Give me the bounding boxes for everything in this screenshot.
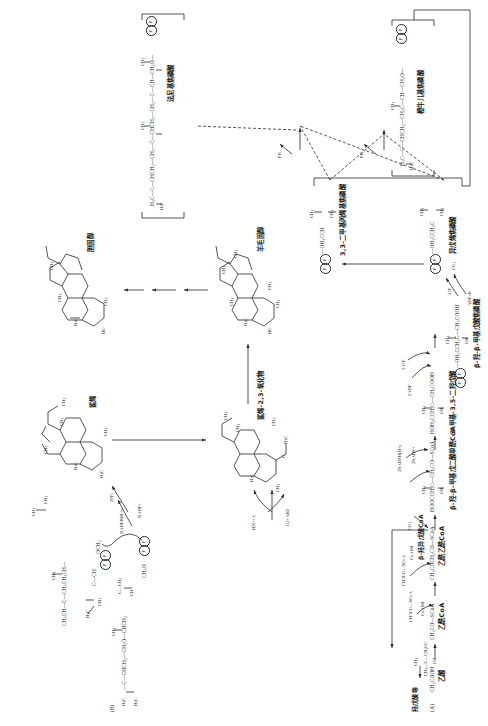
acetoacetyl-coa-label: 乙酰乙酰CoA xyxy=(439,526,446,566)
lan-ch3-1: CH3 xyxy=(230,298,235,306)
presq-ch3-top: CH3 xyxy=(52,572,57,580)
lan-ch3-2: CH3 xyxy=(222,266,227,274)
ipp-label: 异戊烯焦磷酸 xyxy=(450,216,457,254)
gpp-p1: P xyxy=(396,34,407,45)
fpp-formula: H3C—C—CHCH2—CH2—C—CHCH2—CH2—C—CH—CH2O— xyxy=(150,55,157,206)
figure-page: (A) CH3COOH 乙酸 CH3CO—SCoA 乙酰CoA CH3COCH2… xyxy=(0,0,488,726)
mev5p-formula: —OH2CCH2C—CH2COOH xyxy=(455,305,462,368)
chol-ch3-2: CH3 xyxy=(50,262,55,270)
hmg-coa-formula: HOOCCH2C—CH2CO—SCoA xyxy=(430,441,437,512)
gpp-ch3: CH3 xyxy=(391,102,396,110)
fppb-tail: CH2O xyxy=(142,564,149,578)
acetyl-coa-input-1: CH3CO—SCoA xyxy=(409,591,414,622)
skeleton-overlay xyxy=(0,0,488,726)
sqox-h3c2: H3C xyxy=(284,436,289,444)
lan-ch3-3: CH3 xyxy=(234,250,239,258)
presq-ch: C—CH xyxy=(92,569,98,586)
phosphate-circle-1: P xyxy=(455,378,466,389)
presq-formula: CH2CH—C—CH2CH2CH— xyxy=(62,561,69,626)
hmg-coa-ch3: CH3 xyxy=(422,486,427,494)
squalene-ch3-4: CH3 xyxy=(62,398,67,406)
branch-c: CH2—C—CH2CO xyxy=(424,641,429,676)
presq-p2: P xyxy=(100,551,111,562)
sqox-ch3-3: CH3 xyxy=(272,418,277,426)
ppi-b-label: 2PPi xyxy=(110,493,115,502)
acetyl-coa-input-2: CH3CO—SCoA xyxy=(402,555,407,586)
ipp-p1: P xyxy=(430,264,441,275)
presq-ch3-low: CH3 xyxy=(98,598,103,606)
co2-2-label: CO2 xyxy=(452,262,457,270)
gpp-h3c-b: H3C xyxy=(410,162,415,170)
coash-out-1: CoASH xyxy=(421,601,426,616)
mev5p-label: β-羟-β-甲基戊酸焦磷酸 xyxy=(474,299,481,368)
fppb-p1: P xyxy=(139,546,150,557)
mev5p-oh: OH xyxy=(465,337,470,344)
co2-label: CO2 xyxy=(408,522,413,530)
presq-ch3-b: CH3 xyxy=(44,496,49,504)
mev5p-ch3: CH3 xyxy=(446,336,451,344)
squalene-ch3-2: CH3 xyxy=(44,446,49,454)
branch-oh: OH xyxy=(433,657,438,664)
nadp-label: 2NADP+ xyxy=(412,447,417,464)
atp-label: ATP xyxy=(448,288,453,296)
sqox-ch3-2: CH3 xyxy=(224,412,229,420)
ipp-formula: —OH2CCH2C xyxy=(430,221,437,254)
nadp-b-label: NADP+ xyxy=(138,503,143,518)
gpp-p2: P xyxy=(396,25,407,36)
fppb-ch3: CH3 xyxy=(112,628,117,636)
fpp-ch3a: CH3 xyxy=(141,122,146,130)
atp-2-label: 2ATP xyxy=(402,360,407,370)
hmg-coa-oh: OH xyxy=(440,487,445,494)
acetic-acid-label: 乙酸 xyxy=(439,669,446,682)
chol-h3c: H3C xyxy=(74,318,79,326)
cholesterol-label: 胆固醇 xyxy=(88,233,95,252)
gpp-label: 橙牛儿基焦磷酸 xyxy=(418,70,425,114)
squalene-h3c-1: H3C xyxy=(74,462,79,470)
acetoacetyl-coa-formula: CH3COCH2CO—SCoA xyxy=(430,526,437,580)
squalene-h3c-2: H3C xyxy=(100,470,105,478)
lan-ch3-4: CH3 xyxy=(276,300,281,308)
phosphate-circle-2: P xyxy=(455,369,466,380)
ipp-p2: P xyxy=(430,255,441,266)
ipp-ch2b: CH2 xyxy=(440,208,445,216)
squalene-label: 鲨烯 xyxy=(90,395,97,408)
acetic-acid-formula: CH3COOH xyxy=(430,667,437,692)
hmg-coa-label: β-羟-β-甲基戊二酸单酰CoA xyxy=(450,426,457,510)
ppi-1-label: PPi xyxy=(360,152,365,158)
sqox-ch3-1: CH3 xyxy=(236,424,241,432)
lan-h3c: H3C xyxy=(244,318,249,326)
sqox-ch3-4: CH3 xyxy=(276,484,281,492)
adp-pi-label: ADP+Pi xyxy=(468,290,473,306)
ipp-ch2: CH2 xyxy=(420,208,425,216)
sqox-h3c: H3C xyxy=(250,474,255,482)
branch-ch3: CH3 xyxy=(414,658,419,666)
panel-b-title: (B) xyxy=(110,705,116,713)
fppb-p2: P xyxy=(139,537,150,548)
dmapp-p2: P xyxy=(320,255,331,266)
fpp-h3c-b: H3C xyxy=(160,202,165,210)
dmapp-ch3b: CH3 xyxy=(330,210,335,218)
gpp-formula: H3C—C—CHCH2—CH2C—CH—CH2O— xyxy=(400,68,407,166)
fppb-h3c-b: H3C xyxy=(134,698,139,706)
chol-ch3-3: CH3 xyxy=(104,298,109,306)
chol-ho: HO xyxy=(102,327,107,334)
presq-h3c: H3C xyxy=(86,610,91,618)
fpp-p2: P xyxy=(146,17,157,28)
dmapp-label: 3,3-二甲基丙烯基焦磷酸 xyxy=(340,184,347,256)
sqox-o: O xyxy=(282,455,287,458)
dmapp-p1: P xyxy=(320,264,331,275)
lanosterol-label: 羊毛固醇 xyxy=(258,227,265,252)
mevalonate-etc-label: 羟戊酸等 xyxy=(412,687,418,712)
presq-ch3-a: CH3 xyxy=(32,508,37,516)
pathway-canvas: (A) CH3COOH 乙酸 CH3CO—SCoA 乙酰CoA CH3COCH2… xyxy=(0,0,488,726)
lan-ho: HO xyxy=(268,327,273,334)
mevalonate-ch3: CH3 xyxy=(422,406,427,414)
o2-ah2-label: O2+AH2 xyxy=(286,509,291,526)
presq-p1: P xyxy=(100,560,111,571)
squalene-ch3-1: CH3 xyxy=(60,418,65,426)
squalene-ch3-3: CH3 xyxy=(104,428,109,436)
nadph-b-label: NADPH(H+) xyxy=(120,509,125,534)
ppi-2-label: PPi xyxy=(278,152,283,158)
adp-2-label: 2ADP xyxy=(408,385,413,397)
acetyl-coa-label: 乙酰CoA xyxy=(439,602,446,630)
